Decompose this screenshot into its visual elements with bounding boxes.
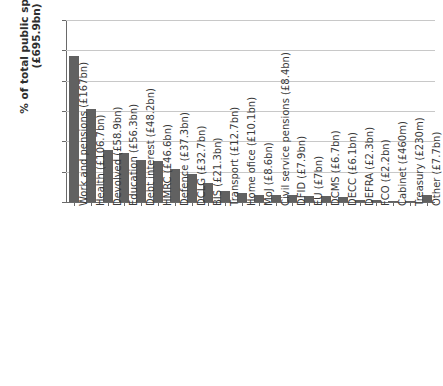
x-tick-label: MoJ (£8.6bn) <box>263 142 274 206</box>
x-tick-label: Treasury (£230m) <box>414 117 425 206</box>
x-tick-label: HMRC (£46.6bn) <box>162 124 173 206</box>
x-axis-labels: Work and pensions (£167bn)Health (£106.7… <box>66 206 435 386</box>
x-tick-label: Devolved (£58.9bn) <box>112 107 123 206</box>
x-tick-label: Health (£106.7bn) <box>95 115 106 207</box>
x-tick-label: Transport (£12.7bn) <box>229 107 240 206</box>
x-tick-label: DEFRA (£2.3bn) <box>364 127 375 206</box>
x-tick-label: DFID (£7.9bn) <box>296 136 307 206</box>
y-tick-mark <box>62 202 66 203</box>
x-tick-label: DCMS (£6.7bn) <box>330 130 341 206</box>
x-tick-label: Other (£7.7bn) <box>431 132 442 206</box>
x-tick-label: Home ofice (£10.1bn) <box>246 97 257 206</box>
x-tick-label: Defence (£37.3bn) <box>179 112 190 206</box>
x-tick-label: DECC (£6.1bn) <box>347 132 358 206</box>
x-tick-label: DCLG (£32.7bn) <box>196 126 207 206</box>
x-tick-label: Civil service pensions (£8.4bn) <box>280 52 291 206</box>
x-tick-label: Education (£56.3bn) <box>128 104 139 206</box>
x-tick-label: BIS (£21.3bn) <box>212 138 223 206</box>
x-tick-label: Debt interest (£48.2bn) <box>145 88 156 206</box>
x-tick-label: Cabinet (£460m) <box>397 121 408 206</box>
y-axis-title: % of total public spending (£695.9bn) <box>18 0 42 136</box>
bar-chart: % of total public spending (£695.9bn) 30… <box>0 0 443 386</box>
x-tick-label: EU (£7bn) <box>313 156 324 206</box>
x-tick-label: FCO (£2.2bn) <box>380 139 391 206</box>
x-tick-label: Work and pensions (£167bn) <box>78 62 89 206</box>
